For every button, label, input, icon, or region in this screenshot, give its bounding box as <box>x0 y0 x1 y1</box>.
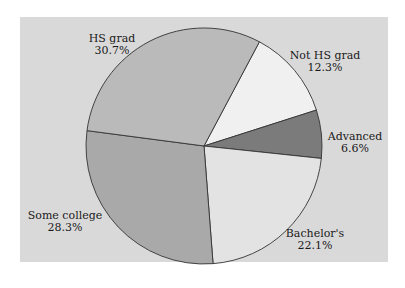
label-advanced: Advanced 6.6% <box>328 131 383 155</box>
label-bachelors-pct: 22.1% <box>286 240 344 252</box>
label-hs-grad: HS grad 30.7% <box>89 33 136 57</box>
label-some-college-pct: 28.3% <box>28 222 102 234</box>
label-not-hs-grad-pct: 12.3% <box>290 62 361 74</box>
label-not-hs-grad: Not HS grad 12.3% <box>290 50 361 74</box>
label-some-college: Some college 28.3% <box>28 210 102 234</box>
label-bachelors: Bachelor's 22.1% <box>286 228 344 252</box>
label-advanced-pct: 6.6% <box>328 143 383 155</box>
pie-slice-some-college <box>86 131 213 264</box>
label-hs-grad-pct: 30.7% <box>89 45 136 57</box>
